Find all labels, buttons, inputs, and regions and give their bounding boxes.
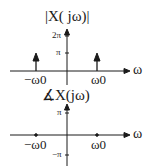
x-tick-w0: ω0: [91, 73, 106, 86]
phase-axes: [10, 104, 130, 166]
y-tick-pi: π: [56, 48, 61, 57]
y-tick-2pi: 2π: [52, 31, 61, 40]
x-tick-neg-w0: −ω0: [24, 73, 46, 86]
x-axis-label-omega-phase: ω: [133, 127, 142, 141]
magnitude-title: |X( jω)|: [45, 9, 90, 24]
y-tick-neg-pi: −π: [52, 150, 62, 159]
y-tick-pi-phase: π: [57, 108, 62, 117]
x-tick-neg-w0-phase: −ω0: [24, 138, 46, 151]
x-axis-label-omega: ω: [133, 63, 142, 77]
diagram-canvas: [0, 0, 150, 166]
phase-title: ∡X(jω): [42, 88, 90, 103]
x-tick-w0-phase: ω0: [91, 138, 106, 151]
